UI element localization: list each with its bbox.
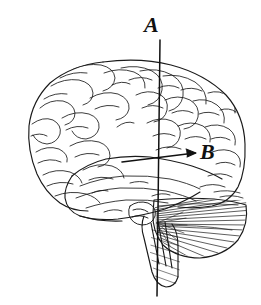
label-b: B bbox=[200, 141, 215, 163]
temporal-lobe-gyri bbox=[76, 176, 200, 212]
label-a: A bbox=[144, 14, 159, 36]
brain-diagram-figure: A B bbox=[0, 0, 261, 305]
occipital-pole-detail bbox=[214, 191, 243, 198]
cerebrum-outline bbox=[29, 60, 245, 211]
brain-illustration bbox=[0, 0, 261, 305]
cerebrum-gyri bbox=[31, 65, 240, 204]
vertical-reference-line-a bbox=[157, 40, 160, 296]
